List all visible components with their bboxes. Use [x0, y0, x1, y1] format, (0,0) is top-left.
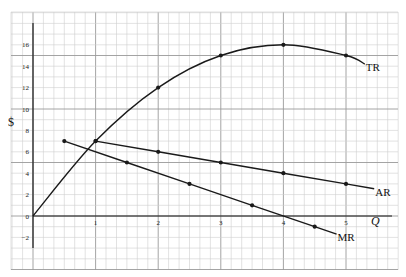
- series-lines: TRARMR: [33, 43, 391, 244]
- data-point: [344, 53, 348, 57]
- x-tick-label: 2: [156, 219, 160, 227]
- data-point: [219, 53, 223, 57]
- data-point: [313, 225, 317, 229]
- data-point: [187, 182, 191, 186]
- y-tick-label: 14: [22, 63, 30, 71]
- x-axis-label: Q: [371, 214, 380, 228]
- y-tick-label: −2: [22, 234, 30, 242]
- x-tick-label: 3: [219, 219, 223, 227]
- y-tick-label: 8: [26, 127, 30, 135]
- data-point: [156, 86, 160, 90]
- y-tick-label: 10: [22, 106, 30, 114]
- revenue-chart: −2024681012141612345 TRARMR $ Q: [0, 0, 406, 277]
- ar-label: AR: [375, 186, 391, 198]
- tr-label: TR: [366, 61, 381, 73]
- x-tick-label: 4: [282, 219, 286, 227]
- data-point: [94, 139, 98, 143]
- y-axis-label: $: [8, 115, 14, 129]
- y-tick-label: 12: [22, 84, 30, 92]
- series-ar: AR: [94, 139, 392, 198]
- data-point: [62, 139, 66, 143]
- x-tick-label: 1: [94, 219, 98, 227]
- y-tick-label: 6: [26, 148, 30, 156]
- data-point: [219, 160, 223, 164]
- y-tick-label: 0: [26, 213, 30, 221]
- x-tick-label: 5: [344, 219, 348, 227]
- data-point: [250, 203, 254, 207]
- data-point: [344, 182, 348, 186]
- data-point: [156, 150, 160, 154]
- axes: [33, 23, 392, 248]
- y-tick-label: 4: [26, 170, 30, 178]
- data-point: [281, 171, 285, 175]
- data-point: [125, 160, 129, 164]
- mr-label: MR: [338, 231, 356, 243]
- mr-line: [64, 141, 336, 234]
- data-point: [281, 43, 285, 47]
- y-tick-label: 16: [22, 41, 30, 49]
- y-tick-label: 2: [26, 191, 30, 199]
